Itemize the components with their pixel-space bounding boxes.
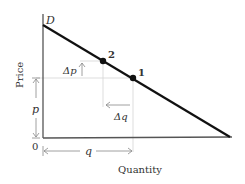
point-1-label: 1 <box>138 67 145 78</box>
x-axis <box>43 137 232 138</box>
demand-curve <box>43 25 230 137</box>
origin-label: 0 <box>32 141 38 152</box>
q-label: q <box>85 145 92 158</box>
demand-diagram: D 2 1 Δp Δq p q 0 Quantity Price <box>0 0 245 184</box>
delta-q-label: Δq <box>113 111 128 122</box>
point-2-label: 2 <box>108 49 115 60</box>
delta-p-label: Δp <box>62 65 77 76</box>
point-1 <box>130 75 136 81</box>
delta-p-arrow <box>79 63 85 76</box>
p-label: p <box>32 103 39 116</box>
delta-q-arrow <box>106 102 130 108</box>
point-2 <box>100 58 106 64</box>
x-axis-label: Quantity <box>118 164 162 175</box>
y-axis-label: Price <box>14 62 25 88</box>
curve-label: D <box>45 14 55 27</box>
